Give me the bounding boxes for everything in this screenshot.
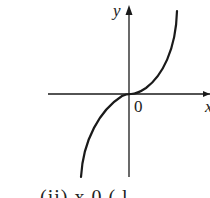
y-axis-label: y — [113, 1, 121, 21]
x-axis-label: x — [205, 97, 210, 117]
graph — [0, 0, 210, 198]
y-axis-arrow-icon — [126, 5, 133, 15]
origin-label: 0 — [134, 97, 143, 117]
caption-partial: (ii) x 0 ( l — [40, 186, 129, 198]
